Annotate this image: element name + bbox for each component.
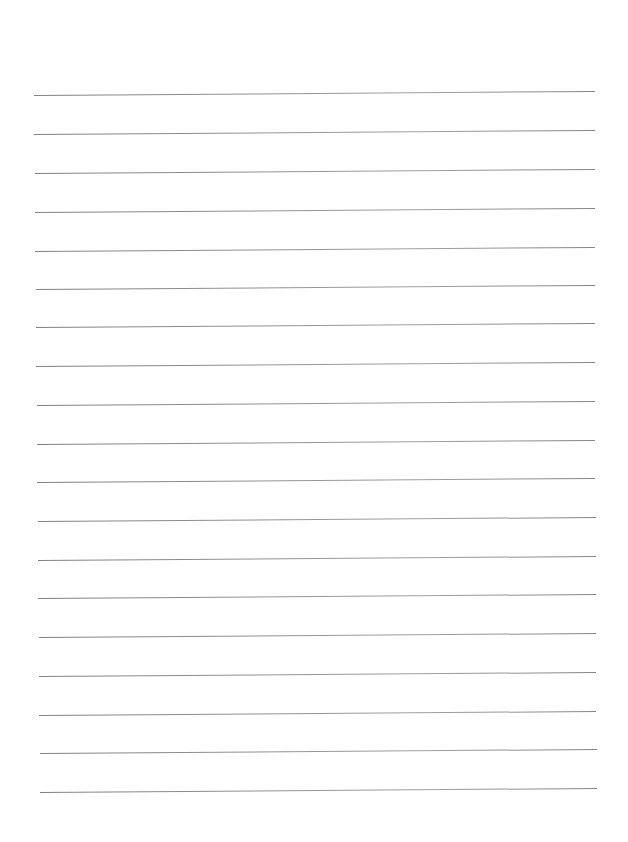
ruled-line: [40, 749, 597, 754]
ruled-line: [38, 517, 596, 522]
ruled-line: [39, 711, 596, 716]
ruled-line: [37, 440, 595, 445]
lined-paper-page: [0, 0, 628, 842]
ruled-line: [40, 788, 597, 793]
ruled-line: [36, 323, 595, 328]
ruled-line: [36, 362, 595, 367]
ruled-line: [34, 130, 595, 135]
ruled-line: [37, 401, 595, 406]
ruled-line: [37, 478, 595, 483]
ruled-line: [34, 91, 595, 96]
ruled-line: [35, 247, 595, 252]
ruled-line: [36, 285, 595, 290]
ruled-line: [35, 169, 595, 174]
ruled-line: [39, 672, 596, 677]
ruled-line: [39, 633, 596, 638]
ruled-line: [35, 208, 595, 213]
ruled-line: [38, 556, 596, 561]
ruled-line: [38, 594, 596, 599]
